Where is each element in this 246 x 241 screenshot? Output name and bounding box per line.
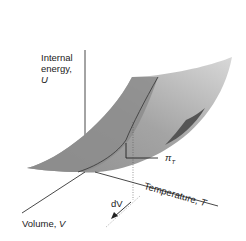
internal-energy-surface-diagram: Internal energy, U πT Temperature, T dV … bbox=[0, 0, 246, 241]
diagram-graphic bbox=[0, 0, 246, 241]
dv-arrow-head bbox=[111, 212, 118, 219]
volume-axis-label: Volume, V bbox=[22, 218, 65, 229]
u-axis-label: Internal energy, U bbox=[41, 52, 73, 85]
v-axis bbox=[22, 172, 85, 213]
dv-label: dV bbox=[111, 198, 123, 209]
pi-t-label: πT bbox=[165, 152, 175, 168]
